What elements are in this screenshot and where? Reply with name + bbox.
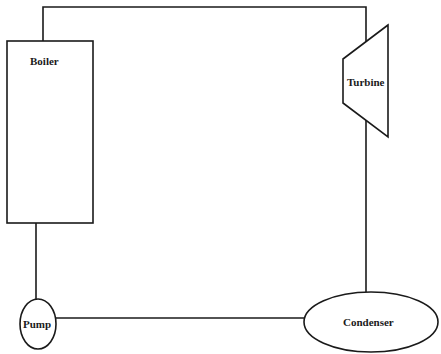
pump: Pump — [20, 299, 56, 349]
pump-label: Pump — [23, 318, 51, 330]
rankine-cycle-diagram: Boiler Turbine Condenser Pump — [0, 0, 441, 354]
boiler: Boiler — [7, 41, 93, 223]
turbine-label: Turbine — [347, 76, 385, 88]
condenser: Condenser — [304, 292, 438, 352]
turbine: Turbine — [343, 25, 388, 137]
boiler-label: Boiler — [30, 55, 59, 67]
pipe-boiler-to-turbine — [43, 7, 366, 42]
boiler-box — [7, 41, 93, 223]
condenser-label: Condenser — [343, 316, 394, 328]
